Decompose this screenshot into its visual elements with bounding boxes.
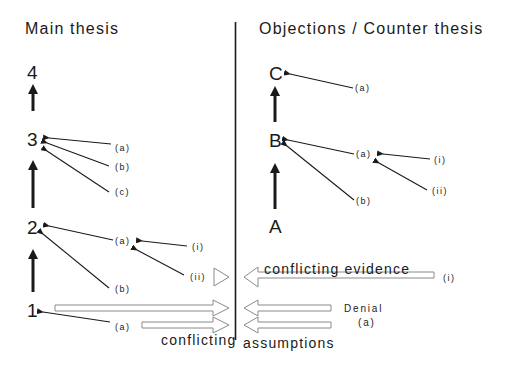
denial-label: Denial [344,304,383,314]
nodeBa-sub-i: (i) [434,156,447,165]
diagram-lines [0,0,516,366]
node3-support-c: (c) [115,188,130,197]
node1-support-a: (a) [115,323,131,332]
nodeB-support-b: (b) [356,197,372,206]
node3-support-b: (b) [115,163,131,172]
denial-sub-label: (a) [358,318,376,328]
assumption-arrow-1 [55,300,229,316]
nodeB-support-a: (a) [356,150,372,159]
denial-arrow-1 [244,300,331,316]
conflicting-evidence-source: (i) [443,274,456,283]
node3-support-a: (a) [115,144,131,153]
counter-node-a: A [269,217,282,236]
main-thesis-heading: Main thesis [25,20,119,38]
conflicting-assumptions-right: assumptions [243,336,335,350]
denial-arrow-2 [244,317,331,333]
counter-node-b: B [269,131,282,150]
main-node-3: 3 [27,130,38,149]
counter-node-c: C [269,64,283,83]
evidence-target-arrowhead [214,268,229,286]
main-node-1: 1 [27,301,38,320]
node2-support-a: (a) [115,237,131,246]
node2a-sub-i: (i) [192,243,205,252]
main-node-4: 4 [27,63,38,82]
counter-thesis-heading: Objections / Counter thesis [259,20,484,38]
nodeBa-sub-ii: (ii) [432,187,448,196]
conflicting-evidence-label: conflicting evidence [264,262,410,276]
node2-support-b: (b) [115,285,131,294]
main-node-2: 2 [27,218,38,237]
node2a-sub-ii: (ii) [190,273,206,282]
argument-diagram: Main thesis Objections / Counter thesis … [0,0,516,366]
main-chain-arrows [28,84,38,292]
assumption-arrow-2 [142,317,229,333]
nodeC-support-a: (a) [355,84,371,93]
conflicting-assumptions-left: conflicting [161,333,236,347]
